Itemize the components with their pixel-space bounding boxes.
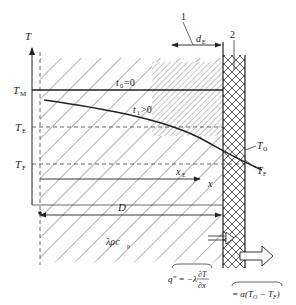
svg-text:>0: >0 [141,104,152,115]
svg-text:E: E [22,127,26,135]
to-leader [245,146,256,150]
svg-text:t: t [133,104,136,115]
svg-text:E: E [202,39,206,45]
svg-text:t: t [116,77,119,88]
svg-text:O: O [263,146,268,152]
heat-transfer-diagram: T T M T E T F t 0 =0 t 1 >0 1 2 d E T O … [0,0,296,305]
svg-text:∂T: ∂T [198,270,207,279]
slab-region [40,58,223,265]
svg-text:λρc: λρc [105,236,120,247]
svg-text:T: T [15,121,22,133]
tf-leader [245,160,256,168]
svg-text:x: x [175,166,181,177]
label-tf-axis: T F [15,158,26,172]
x-axis-label: x [207,178,213,189]
t-axis-label: T [25,30,32,42]
svg-text:F: F [22,164,26,172]
label-d: D [117,201,126,213]
svg-text:∂x: ∂x [198,281,206,290]
callout-1-leader [183,22,193,45]
svg-text:T: T [15,158,22,170]
svg-text:=0: =0 [124,77,135,88]
svg-text:M: M [20,90,27,98]
label-te: T E [15,121,26,135]
callout-2: 2 [230,29,235,40]
callout-1: 1 [181,11,186,22]
svg-text:q″ = −λ: q″ = −λ [168,274,197,284]
svg-text:= α(TO − TF): = α(TO − TF) [232,289,280,300]
origin-dot [38,211,42,215]
svg-text:1: 1 [137,110,140,116]
label-de: d E [196,33,206,45]
convection-formula: = α(TO − TF) [232,289,280,300]
svg-text:E: E [182,172,186,178]
svg-text:F: F [263,171,267,177]
convection-brace [232,282,282,286]
label-to: T O [257,140,268,152]
label-tf-wall: T F [257,165,267,177]
svg-text:T: T [13,84,20,96]
svg-text:p: p [127,243,130,249]
conduction-formula: q″ = −λ ∂T ∂x [168,270,209,290]
label-tm: T M [13,84,27,98]
svg-text:0: 0 [120,83,123,89]
